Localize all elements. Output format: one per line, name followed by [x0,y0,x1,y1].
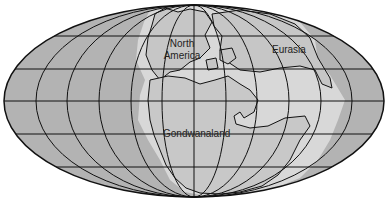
label-eurasia: Eurasia [272,44,306,56]
europe-islands [206,58,218,70]
label-america: America [160,50,204,62]
paleogeographic-world-map: North America Eurasia Gondwanaland [0,0,392,205]
label-gondwanaland: Gondwanaland [163,128,230,140]
label-north: North [160,38,204,50]
label-north-america: North America [160,38,204,62]
map-canvas [0,0,392,205]
